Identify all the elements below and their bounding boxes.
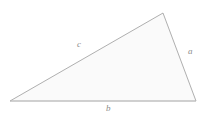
side-label-a: a	[188, 47, 193, 56]
triangle-shape	[0, 0, 209, 119]
side-label-c: c	[77, 40, 81, 49]
triangle-diagram: c a b	[0, 0, 209, 119]
triangle-polygon	[10, 13, 196, 101]
side-label-b: b	[106, 104, 111, 113]
